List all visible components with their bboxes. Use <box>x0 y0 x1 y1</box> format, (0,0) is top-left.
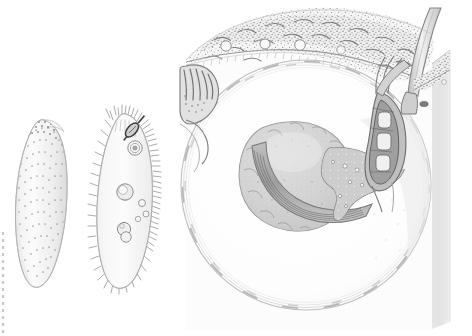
block-right-face <box>429 50 450 330</box>
macronucleus <box>117 184 133 200</box>
figure-ciliate-internal-view <box>88 105 161 294</box>
pellicle-stipple-rows <box>10 112 74 296</box>
contractile-vacuole-upper <box>128 141 142 155</box>
plate-artwork <box>0 0 472 336</box>
figure-cutaway-block-section <box>180 8 450 330</box>
figure-ciliate-dorsal-view <box>10 112 74 296</box>
illustration-plate: Elongated slipper-shaped ciliate protozo… <box>0 0 472 336</box>
